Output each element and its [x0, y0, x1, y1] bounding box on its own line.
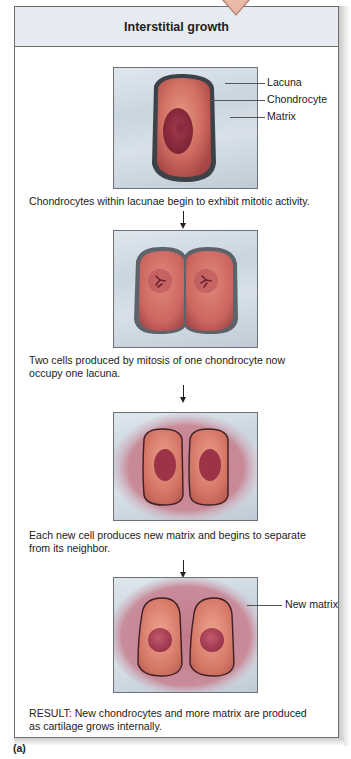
lacuna-leader-line — [225, 83, 265, 84]
result-caption: RESULT: New chondrocytes and more matrix… — [29, 707, 329, 733]
step2-caption: Two cells produced by mitosis of one cho… — [29, 354, 329, 380]
step1-illustration — [113, 67, 258, 189]
result-caption-line2: as cartilage grows internally. — [29, 720, 329, 733]
step3-caption: Each new cell produces new matrix and be… — [29, 529, 329, 555]
result-caption-line1: RESULT: New chondrocytes and more matrix… — [29, 707, 329, 720]
down-arrow-icon — [183, 211, 184, 225]
down-arrow-icon — [183, 385, 184, 399]
figure-label: (a) — [13, 742, 26, 754]
new-matrix-leader-line — [247, 605, 282, 606]
panel-shadow-bottom — [14, 738, 344, 746]
label-lacuna: Lacuna — [267, 76, 302, 88]
pointer-arrow-icon — [224, 0, 248, 14]
step3-illustration — [113, 412, 258, 521]
step1-caption: Chondrocytes within lacunae begin to exh… — [29, 195, 329, 208]
step3-caption-line2: from its neighbor. — [29, 542, 329, 555]
label-chondrocyte: Chondrocyte — [267, 93, 327, 105]
step4-illustration — [113, 577, 258, 693]
chondrocyte-leader-line — [210, 100, 265, 101]
step2-illustration — [113, 230, 258, 348]
down-arrow-icon — [183, 560, 184, 574]
panel-title: Interstitial growth — [15, 7, 338, 47]
matrix-leader-line — [230, 117, 265, 118]
step3-caption-line1: Each new cell produces new matrix and be… — [29, 529, 329, 542]
interstitial-growth-panel: Interstitial growth Lacuna Chondrocyt — [14, 6, 339, 738]
label-matrix: Matrix — [267, 110, 296, 122]
label-new-matrix: New matrix — [285, 598, 338, 610]
panel-shadow — [339, 6, 351, 746]
step2-caption-line1: Two cells produced by mitosis of one cho… — [29, 354, 329, 367]
step2-caption-line2: occupy one lacuna. — [29, 367, 329, 380]
